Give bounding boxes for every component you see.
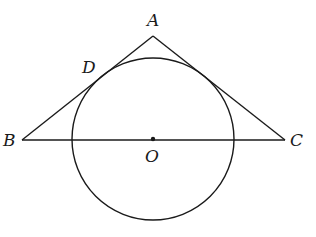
label-a: A [145, 10, 159, 30]
segment-ac [153, 36, 285, 140]
label-o: O [145, 146, 159, 166]
segment-ab [22, 36, 153, 140]
geometry-diagram: A D B C O [0, 0, 316, 237]
center-point-o [151, 137, 155, 141]
label-b: B [2, 130, 16, 150]
label-c: C [290, 130, 303, 150]
diagram-canvas: A D B C O [0, 0, 316, 237]
label-d: D [81, 57, 96, 77]
